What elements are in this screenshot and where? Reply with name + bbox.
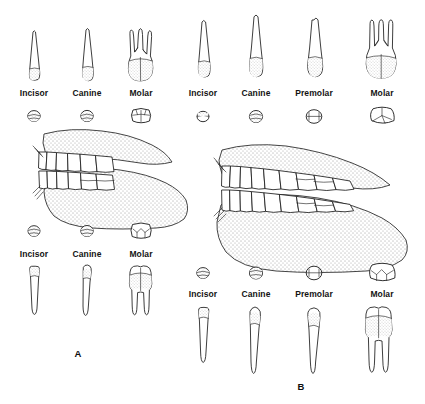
tooth-profile-incisor-upper-a	[29, 31, 39, 81]
tooth-profile-incisor-lower-a	[30, 266, 40, 314]
occlusal-canine-upper-b	[249, 111, 262, 123]
occlusal-premolar-upper-b	[306, 110, 322, 124]
occlusal-incisor-upper-a	[28, 111, 40, 122]
tooth-profile-premolar-lower-b	[308, 308, 320, 374]
occlusal-incisor-lower-a	[28, 226, 40, 237]
tooth-profile-incisor-lower-b	[199, 307, 209, 362]
label-incisor-lower-b: Incisor	[189, 289, 218, 299]
tooth-profile-molar-lower-a	[129, 266, 151, 315]
jaw-illustration-b	[214, 145, 407, 273]
jaw-illustration-a	[33, 130, 188, 229]
occlusal-incisor-lower-b	[197, 268, 209, 279]
tooth-profile-incisor-upper-b	[198, 21, 210, 78]
panel-b-upper-profiles	[198, 15, 396, 78]
occlusal-canine-lower-b	[249, 267, 262, 279]
label-premolar-upper-b: Premolar	[295, 88, 333, 98]
label-molar-upper-b: Molar	[370, 88, 393, 98]
label-canine-upper-a: Canine	[73, 88, 102, 98]
panel-a-upper-occlusal	[28, 109, 151, 123]
tooth-profile-premolar-upper-b	[308, 18, 323, 77]
tooth-profile-canine-lower-a	[83, 265, 91, 315]
tooth-profile-canine-upper-b	[249, 15, 262, 77]
panel-marker-b: B	[298, 381, 305, 392]
label-incisor-upper-b: Incisor	[189, 88, 218, 98]
panel-b-upper-occlusal	[197, 107, 394, 123]
occlusal-molar-upper-a	[131, 109, 150, 123]
label-molar-upper-a: Molar	[129, 88, 152, 98]
figure-canvas	[0, 0, 425, 404]
occlusal-incisor-upper-b	[197, 111, 209, 121]
tooth-profile-canine-upper-a	[82, 29, 93, 82]
label-premolar-lower-b: Premolar	[295, 289, 333, 299]
label-canine-lower-b: Canine	[242, 289, 271, 299]
occlusal-molar-upper-b	[371, 107, 395, 123]
panel-a-upper-profiles	[29, 29, 152, 82]
occlusal-canine-upper-a	[81, 110, 93, 121]
label-canine-upper-b: Canine	[242, 88, 271, 98]
label-molar-lower-b: Molar	[370, 289, 393, 299]
label-canine-lower-a: Canine	[73, 249, 102, 259]
occlusal-molar-lower-a	[131, 223, 151, 238]
panel-b-lower-profiles	[199, 307, 392, 374]
panel-a-lower-profiles	[30, 265, 152, 315]
tooth-profile-molar-lower-b	[365, 307, 392, 372]
label-molar-lower-a: Molar	[129, 249, 152, 259]
panel-marker-a: A	[75, 348, 82, 359]
dental-anatomy-figure: Incisor Canine Molar Incisor Canine Mola…	[0, 0, 425, 404]
occlusal-premolar-lower-b	[306, 266, 322, 280]
tooth-profile-molar-upper-a	[128, 29, 152, 81]
tooth-profile-canine-lower-b	[250, 307, 261, 373]
tooth-profile-molar-upper-b	[366, 20, 396, 79]
occlusal-canine-lower-a	[81, 226, 93, 237]
occlusal-molar-lower-b	[370, 263, 396, 280]
label-incisor-lower-a: Incisor	[20, 249, 49, 259]
label-incisor-upper-a: Incisor	[20, 88, 49, 98]
